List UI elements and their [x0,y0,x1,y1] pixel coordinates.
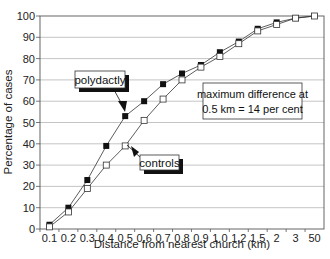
x-tick-label: 0.1 [42,232,57,244]
open-square-marker-icon [46,224,52,230]
filled-square-marker-icon [141,98,147,104]
x-tick-label: 3 [293,232,299,244]
polydactly-series [49,16,314,225]
filled-square-marker-icon [84,177,90,183]
controls-label: controls [139,157,180,169]
y-tick-label: 60 [23,95,35,107]
annotation-line-1: maximum difference at [197,88,308,100]
y-tick-label: 40 [23,138,35,150]
open-square-marker-icon [103,162,109,168]
open-square-marker-icon [65,209,71,215]
gridlines [40,37,324,207]
open-square-marker-icon [198,64,204,70]
open-square-marker-icon [160,96,166,102]
series-group [46,13,317,230]
x-tick-label: 2 [274,232,280,244]
max-difference-annotation: maximum difference at 0.5 km = 14 per ce… [197,83,308,119]
y-axis-ticks: 0102030405060708090100 [17,10,40,235]
polydactly-line [49,16,314,225]
filled-square-marker-icon [103,143,109,149]
open-square-marker-icon [236,41,242,47]
open-square-marker-icon [179,77,185,83]
open-square-marker-icon [255,28,261,34]
controls-line [49,16,314,227]
y-tick-label: 50 [23,117,35,129]
controls-series [49,16,314,227]
y-tick-label: 90 [23,31,35,43]
controls-markers [46,13,317,230]
open-square-marker-icon [293,15,299,21]
y-tick-label: 30 [23,159,35,171]
y-axis-title: Percentage of cases [2,69,14,174]
polydactly-label: polydactly [74,74,125,86]
open-square-marker-icon [122,143,128,149]
y-tick-label: 70 [23,74,35,86]
filled-square-marker-icon [122,113,128,119]
controls-callout: controls [127,145,183,174]
x-tick-label: 0.2 [61,232,76,244]
open-square-marker-icon [84,186,90,192]
open-square-marker-icon [274,22,280,28]
annotation-line-2: 0.5 km = 14 per cent [202,103,303,115]
open-square-marker-icon [141,117,147,123]
filled-square-marker-icon [179,71,185,77]
x-tick-label: 0.3 [80,232,95,244]
open-square-marker-icon [312,13,318,19]
open-square-marker-icon [217,53,223,59]
y-tick-label: 20 [23,180,35,192]
y-tick-label: 80 [23,53,35,65]
y-tick-label: 10 [23,202,35,214]
polydactly-markers [46,13,317,228]
y-tick-label: 0 [29,223,35,235]
polydactly-callout: polydactly [74,71,129,112]
filled-square-marker-icon [160,81,166,87]
line-chart: 0102030405060708090100 0.10.20.30.40.50.… [0,0,330,259]
y-tick-label: 100 [17,10,35,22]
x-axis-title: Distance from nearest church (km) [94,238,271,250]
polydactly-arrowhead-icon [118,101,127,112]
x-tick-label: 50 [308,232,320,244]
